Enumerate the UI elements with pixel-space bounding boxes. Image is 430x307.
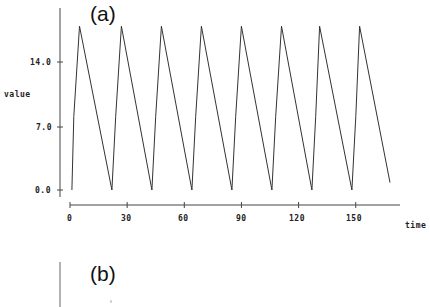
panel-b-title: (b) <box>90 262 116 286</box>
y-tick-label-7: 7.0 <box>36 123 52 132</box>
x-tick-label-0: 0 <box>67 214 72 223</box>
y-tick-label-0: 0.0 <box>35 186 51 195</box>
x-tick-label-60: 60 <box>178 214 189 223</box>
x-tick-label-120: 120 <box>289 214 305 223</box>
y-tick-label-14: 14.0 <box>30 58 51 67</box>
x-axis-label: time <box>405 221 426 230</box>
chart-canvas <box>0 0 430 307</box>
x-tick-label-30: 30 <box>121 214 132 223</box>
panel-a-title: (a) <box>90 2 116 26</box>
sawtooth-series <box>72 26 390 190</box>
x-tick-label-90: 90 <box>236 214 247 223</box>
x-tick-label-150: 150 <box>346 214 362 223</box>
y-axis-label: value <box>4 90 31 99</box>
